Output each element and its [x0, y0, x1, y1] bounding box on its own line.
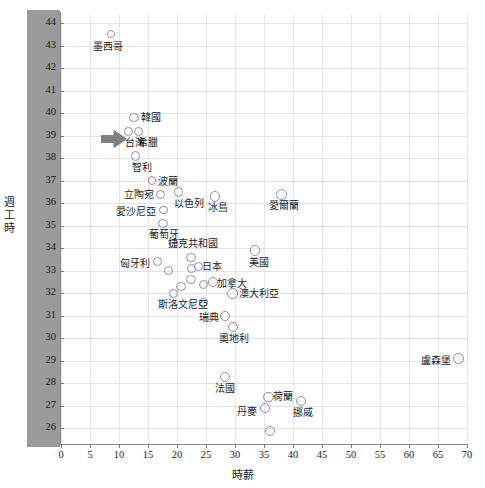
gridline-horizontal: [61, 316, 467, 317]
data-point-label: 智利: [132, 162, 152, 173]
x-axis-tick: [380, 444, 381, 448]
y-axis-line: [60, 12, 61, 444]
y-axis-tick: [60, 113, 64, 114]
taiwan-pointer-arrow-icon: [101, 130, 127, 148]
data-point: [131, 151, 140, 160]
data-point-label: 丹麥: [237, 406, 257, 417]
gridline-vertical: [438, 14, 439, 442]
y-axis-tick-label: 34: [32, 242, 56, 252]
data-point: [220, 311, 230, 321]
x-axis-tick-label: 35: [249, 449, 279, 460]
y-axis-tick-label: 40: [32, 107, 56, 117]
data-point: [176, 282, 185, 291]
y-axis-tick-label: 26: [32, 422, 56, 432]
gridline-horizontal: [61, 158, 467, 159]
data-point-label: 墨西哥: [93, 41, 123, 52]
data-point-label: 冰島: [208, 202, 228, 213]
x-axis-tick: [293, 444, 294, 448]
x-axis-tick: [206, 444, 207, 448]
data-point-label: 荷蘭: [273, 391, 293, 402]
gridline-vertical: [90, 14, 91, 442]
data-point-label: 美國: [249, 257, 269, 268]
x-axis-tick-label: 70: [452, 449, 482, 460]
x-axis-tick: [148, 444, 149, 448]
data-point: [158, 219, 167, 228]
y-axis-tick-label: 41: [32, 85, 56, 95]
data-point: [250, 245, 260, 255]
data-point-label: 以色列: [174, 198, 204, 209]
data-point-label: 匈牙利: [120, 258, 150, 269]
x-axis-title: 時薪: [0, 466, 485, 482]
x-axis-tick: [467, 444, 468, 448]
data-point: [134, 127, 143, 136]
x-axis-tick-label: 30: [220, 449, 250, 460]
gridline-vertical: [235, 14, 236, 442]
gridline-horizontal: [61, 271, 467, 272]
data-point-label: 盧森堡: [421, 355, 451, 366]
gridline-horizontal: [61, 361, 467, 362]
x-axis-tick-label: 40: [278, 449, 308, 460]
y-axis-tick: [60, 383, 64, 384]
y-axis-tick: [60, 226, 64, 227]
x-axis-tick: [264, 444, 265, 448]
y-axis-tick: [60, 316, 64, 317]
data-point-label: 韓國: [141, 112, 161, 123]
gridline-horizontal: [61, 203, 467, 204]
x-axis-tick: [119, 444, 120, 448]
y-axis-tick-label: 30: [32, 332, 56, 342]
data-point: [156, 190, 165, 199]
y-axis-tick-label: 32: [32, 287, 56, 297]
x-axis-tick-label: 45: [307, 449, 337, 460]
y-axis-tick: [60, 203, 64, 204]
data-point-label: 澳大利亞: [239, 288, 279, 299]
data-point: [276, 189, 287, 200]
y-axis-tick-label: 27: [32, 400, 56, 410]
x-axis-tick-label: 20: [162, 449, 192, 460]
data-point: [210, 191, 220, 201]
y-axis-tick: [60, 136, 64, 137]
gridline-horizontal: [61, 91, 467, 92]
y-axis-tick-label: 31: [32, 310, 56, 320]
gridline-vertical: [61, 14, 62, 442]
y-axis-tick: [60, 248, 64, 249]
x-axis-tick-label: 60: [394, 449, 424, 460]
data-point: [296, 396, 306, 406]
y-axis-tick-label: 39: [32, 130, 56, 140]
x-axis-tick: [409, 444, 410, 448]
gridline-vertical: [409, 14, 410, 442]
x-axis-tick-label: 50: [336, 449, 366, 460]
gridline-horizontal: [61, 338, 467, 339]
y-axis-tick-label: 43: [32, 40, 56, 50]
gridline-vertical: [148, 14, 149, 442]
scatter-chart: 0510152025303540455055606570262728293031…: [0, 0, 485, 488]
gridline-vertical: [380, 14, 381, 442]
gridline-horizontal: [61, 113, 467, 114]
gridline-vertical: [264, 14, 265, 442]
data-point: [220, 372, 230, 382]
data-point-label: 日本: [202, 261, 222, 272]
y-axis-tick: [60, 293, 64, 294]
gridline-horizontal: [61, 181, 467, 182]
data-point-label: 立陶宛: [124, 189, 154, 200]
y-axis-tick-label: 29: [32, 355, 56, 365]
gridline-horizontal: [61, 428, 467, 429]
x-axis-tick-label: 65: [423, 449, 453, 460]
x-axis-tick-label: 5: [75, 449, 105, 460]
gridline-horizontal: [61, 383, 467, 384]
plot-area: [61, 14, 467, 442]
data-point-label: 奧地利: [219, 333, 249, 344]
y-axis-tick-label: 33: [32, 265, 56, 275]
y-axis-tick-label: 42: [32, 62, 56, 72]
x-axis-tick-label: 10: [104, 449, 134, 460]
gridline-horizontal: [61, 68, 467, 69]
x-axis-tick: [438, 444, 439, 448]
x-axis-tick: [351, 444, 352, 448]
y-axis-tick-label: 44: [32, 17, 56, 27]
y-axis-tick: [60, 23, 64, 24]
data-point-label: 捷克共和國: [168, 238, 218, 249]
x-axis-tick-label: 15: [133, 449, 163, 460]
y-axis-tick: [60, 181, 64, 182]
y-axis-tick: [60, 68, 64, 69]
gridline-vertical: [322, 14, 323, 442]
y-axis-tick: [60, 158, 64, 159]
